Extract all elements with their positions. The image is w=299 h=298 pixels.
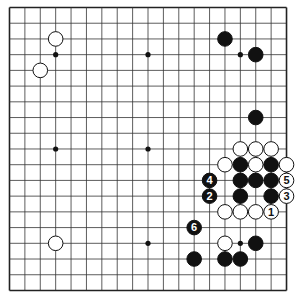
stone-disc	[248, 173, 263, 188]
black-stone	[248, 110, 263, 125]
stone-disc	[233, 205, 248, 220]
white-stone	[233, 205, 248, 220]
white-stone-move-1: 1	[264, 205, 279, 220]
white-stone	[248, 205, 263, 220]
black-stone	[264, 157, 279, 172]
white-stone	[279, 157, 294, 172]
white-stone	[233, 142, 248, 157]
black-stone	[248, 236, 263, 251]
stone-disc	[187, 252, 202, 267]
stone-disc	[233, 157, 248, 172]
white-stone	[248, 157, 263, 172]
stone-disc	[233, 142, 248, 157]
stone-disc	[248, 236, 263, 251]
stone-disc	[248, 142, 263, 157]
black-stone-move-6: 6	[187, 220, 202, 235]
stone-disc	[218, 205, 233, 220]
move-number-label: 4	[207, 174, 214, 186]
star-point	[238, 241, 243, 246]
white-stone	[48, 32, 63, 47]
black-stone	[187, 252, 202, 267]
stone-disc	[264, 142, 279, 157]
white-stone-move-5: 5	[279, 173, 294, 188]
move-number-label: 6	[191, 221, 197, 233]
stone-disc	[48, 236, 63, 251]
stone-disc	[218, 252, 233, 267]
white-stone-move-3: 3	[279, 189, 294, 204]
black-stone	[264, 189, 279, 204]
black-stone	[233, 189, 248, 204]
black-stone	[233, 252, 248, 267]
move-number-label: 5	[283, 174, 289, 186]
stone-disc	[264, 173, 279, 188]
stone-disc	[218, 236, 233, 251]
move-number-label: 2	[207, 190, 213, 202]
black-stone	[218, 252, 233, 267]
white-stone	[264, 142, 279, 157]
stone-disc	[233, 173, 248, 188]
star-point	[145, 52, 150, 57]
black-stone	[248, 47, 263, 62]
stone-disc	[279, 157, 294, 172]
white-stone	[218, 157, 233, 172]
black-stone-move-4: 4	[202, 173, 217, 188]
star-point	[145, 241, 150, 246]
stone-disc	[48, 32, 63, 47]
stone-disc	[233, 252, 248, 267]
stone-disc	[248, 110, 263, 125]
white-stone	[248, 142, 263, 157]
stone-disc	[248, 205, 263, 220]
black-stone-move-2: 2	[202, 189, 217, 204]
black-stone	[233, 157, 248, 172]
move-number-label: 1	[268, 206, 274, 218]
black-stone	[218, 32, 233, 47]
stone-disc	[218, 157, 233, 172]
white-stone	[48, 236, 63, 251]
stone-disc	[33, 63, 48, 78]
stone-disc	[248, 157, 263, 172]
stone-disc	[248, 47, 263, 62]
star-point	[53, 52, 58, 57]
star-point	[53, 146, 58, 151]
black-stone	[233, 173, 248, 188]
stone-disc	[264, 189, 279, 204]
star-point	[238, 52, 243, 57]
white-stone	[218, 236, 233, 251]
black-stone	[248, 173, 263, 188]
star-point	[145, 146, 150, 151]
stone-disc	[218, 32, 233, 47]
move-number-label: 3	[283, 190, 289, 202]
black-stone	[264, 173, 279, 188]
white-stone	[33, 63, 48, 78]
stone-disc	[264, 157, 279, 172]
stone-disc	[233, 189, 248, 204]
go-board: 452316	[0, 0, 299, 298]
white-stone	[218, 205, 233, 220]
